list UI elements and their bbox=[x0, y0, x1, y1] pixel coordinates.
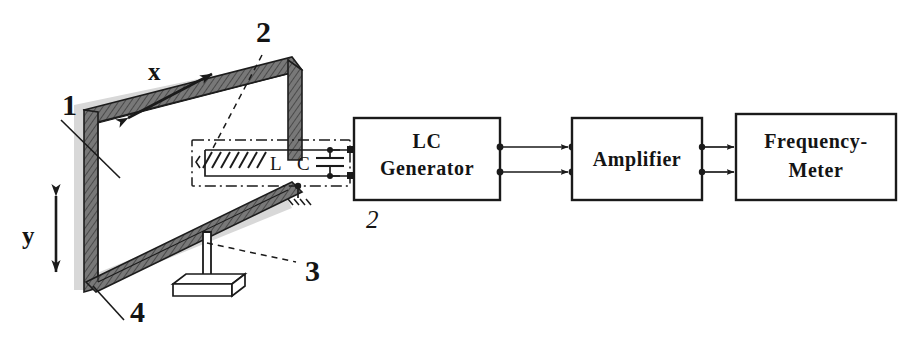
lc-generator-label-line2: Generator bbox=[380, 157, 474, 179]
capacitor-label: C bbox=[297, 153, 310, 174]
callout-4-label: 4 bbox=[130, 295, 145, 328]
callout-2-label: 2 bbox=[256, 15, 271, 48]
inductor-coil bbox=[203, 152, 266, 168]
frame-left-rail bbox=[84, 110, 98, 292]
inductor-label: L bbox=[270, 153, 282, 174]
block-frequency-meter[interactable]: Frequency- Meter bbox=[736, 114, 896, 200]
y-axis-label: y bbox=[22, 222, 35, 249]
sensor-frame bbox=[74, 57, 302, 292]
block-lc-generator[interactable]: LC Generator 2 bbox=[354, 118, 500, 233]
generator-index-label: 2 bbox=[366, 206, 379, 233]
diagram-canvas: x y bbox=[0, 0, 912, 344]
figure-root: x y bbox=[0, 0, 912, 344]
callout-1-label: 1 bbox=[62, 88, 77, 121]
frame-top-rail bbox=[84, 57, 302, 123]
amplifier-label: Amplifier bbox=[593, 148, 682, 171]
block-amplifier[interactable]: Amplifier bbox=[572, 118, 702, 200]
callout-3-label: 3 bbox=[305, 254, 320, 287]
connector-amplifier-frequencymeter bbox=[699, 144, 734, 175]
frequency-meter-box[interactable] bbox=[736, 114, 896, 200]
inductor-lead-left bbox=[196, 156, 200, 168]
frame-right-rail bbox=[288, 60, 302, 160]
stand-base-front bbox=[173, 284, 232, 296]
callout-4: 4 bbox=[93, 286, 145, 328]
lc-generator-label-line1: LC bbox=[413, 130, 442, 152]
connector-generator-amplifier bbox=[497, 144, 576, 176]
frequency-meter-label-line2: Meter bbox=[788, 159, 843, 181]
frequency-meter-label-line1: Frequency- bbox=[764, 130, 867, 153]
capacitor-plates bbox=[316, 158, 344, 166]
x-axis-label: x bbox=[148, 58, 161, 85]
